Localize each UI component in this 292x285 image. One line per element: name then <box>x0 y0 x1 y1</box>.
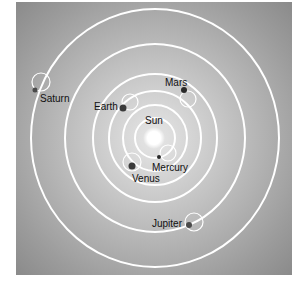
venus-label: Venus <box>132 173 160 184</box>
earth-label: Earth <box>94 101 118 112</box>
mars-label: Mars <box>165 77 187 88</box>
solar-system-diagram: Sun Mercury Venus Earth Mars <box>16 2 292 275</box>
saturn-icon <box>33 88 38 93</box>
earth-icon <box>120 105 127 112</box>
mercury-icon <box>157 155 161 159</box>
saturn-label: Saturn <box>40 93 69 104</box>
venus-icon <box>129 163 136 170</box>
diagram-canvas: Sun Mercury Venus Earth Mars <box>16 2 292 275</box>
jupiter-icon <box>186 222 192 228</box>
jupiter-label: Jupiter <box>152 218 183 229</box>
mercury-label: Mercury <box>152 162 188 173</box>
sun-icon <box>143 127 165 149</box>
sun-label: Sun <box>145 115 163 126</box>
